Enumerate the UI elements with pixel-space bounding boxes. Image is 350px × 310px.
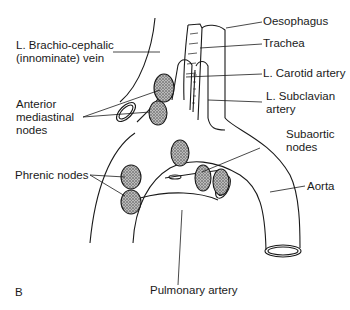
carotid-artery [178, 60, 192, 110]
label-anterior-mediastinal-nodes: Anterior mediastinal nodes [16, 98, 74, 137]
pulmonary-artery [140, 193, 218, 200]
brachiocephalic-vein [120, 18, 155, 102]
label-brachiocephalic: L. Brachio-cephalic (innominate) vein [16, 39, 114, 65]
anterior-mediastinal-node [154, 74, 174, 102]
panel-label: B [15, 286, 23, 299]
label-aorta: Aorta [307, 180, 335, 193]
phrenic-node [121, 190, 141, 214]
label-carotid: L. Carotid artery [263, 67, 345, 80]
label-subaortic-nodes: Subaortic nodes [286, 128, 335, 154]
subaortic-node [213, 169, 229, 195]
anterior-mediastinal-node [149, 101, 167, 125]
label-trachea: Trachea [263, 37, 305, 50]
node [171, 140, 189, 166]
oesophagus [202, 25, 225, 118]
label-phrenic-nodes: Phrenic nodes [15, 169, 89, 182]
subclavian-artery [196, 62, 208, 119]
label-subclavian: L. Subclavian artery [266, 90, 335, 116]
label-oesophagus: Oesophagus [263, 15, 328, 28]
label-pulmonary-artery: Pulmonary artery [150, 284, 238, 297]
